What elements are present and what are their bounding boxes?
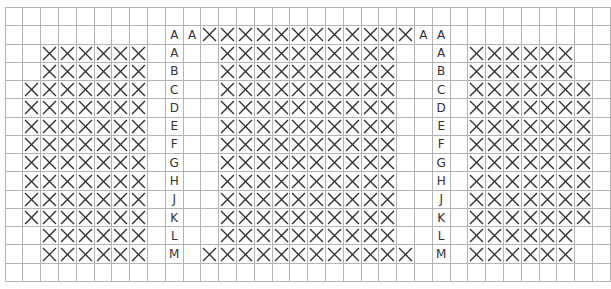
seat-right-marked[interactable]	[540, 118, 558, 136]
seat-left-marked[interactable]	[77, 245, 95, 263]
seat-right-marked[interactable]	[557, 63, 575, 81]
seat-left-marked[interactable]	[77, 45, 95, 63]
seat-left-marked[interactable]	[112, 118, 130, 136]
seat-center-marked[interactable]	[362, 118, 380, 136]
seat-right-marked[interactable]	[504, 81, 522, 99]
seat-right-marked[interactable]	[522, 81, 540, 99]
seat-center-marked[interactable]	[344, 245, 362, 263]
seat-right-marked[interactable]	[486, 81, 504, 99]
seat-right-marked[interactable]	[504, 227, 522, 245]
seat-right-marked[interactable]	[468, 172, 486, 190]
seat-left-marked[interactable]	[130, 191, 148, 209]
seat-center-marked[interactable]	[219, 154, 237, 172]
seat-center-marked[interactable]	[308, 99, 326, 117]
seat-right-marked[interactable]	[522, 245, 540, 263]
seat-left-marked[interactable]	[59, 245, 77, 263]
seat-left-marked[interactable]	[77, 191, 95, 209]
seat-right-marked[interactable]	[540, 154, 558, 172]
seat-center-marked[interactable]	[273, 191, 291, 209]
seat-left-marked[interactable]	[41, 154, 59, 172]
seat-center-marked[interactable]	[237, 81, 255, 99]
seat-center-marked[interactable]	[290, 63, 308, 81]
seat-right-marked[interactable]	[522, 209, 540, 227]
seat-right-marked[interactable]	[557, 245, 575, 263]
seat-left-marked[interactable]	[59, 154, 77, 172]
seat-center-marked[interactable]	[362, 45, 380, 63]
seat-right-marked[interactable]	[486, 172, 504, 190]
seat-center-marked[interactable]	[219, 172, 237, 190]
seat-right-marked[interactable]	[486, 245, 504, 263]
seat-center-marked[interactable]	[326, 136, 344, 154]
seat-right-marked[interactable]	[557, 227, 575, 245]
seat-left-marked[interactable]	[59, 227, 77, 245]
seat-left-marked[interactable]	[95, 136, 113, 154]
seat-right-marked[interactable]	[575, 99, 593, 117]
seat-right-marked[interactable]	[468, 63, 486, 81]
seat-left-marked[interactable]	[41, 45, 59, 63]
seat-left-marked[interactable]	[77, 63, 95, 81]
seat-right-marked[interactable]	[504, 154, 522, 172]
seat-center-marked[interactable]	[273, 154, 291, 172]
seat-center-marked[interactable]	[237, 63, 255, 81]
seat-center-marked[interactable]	[308, 154, 326, 172]
seat-center-marked[interactable]	[219, 118, 237, 136]
seat-left-marked[interactable]	[41, 136, 59, 154]
seat-left-marked[interactable]	[23, 136, 41, 154]
seat-center-marked[interactable]	[326, 209, 344, 227]
seat-left-marked[interactable]	[59, 45, 77, 63]
seat-left-marked[interactable]	[112, 209, 130, 227]
seat-center-marked[interactable]	[255, 245, 273, 263]
seat-left-marked[interactable]	[112, 63, 130, 81]
seat-right-marked[interactable]	[540, 227, 558, 245]
seat-center-marked[interactable]	[379, 63, 397, 81]
seat-left-marked[interactable]	[130, 154, 148, 172]
seat-center-marked[interactable]	[219, 45, 237, 63]
seat-center-marked[interactable]	[379, 81, 397, 99]
seat-left-marked[interactable]	[130, 227, 148, 245]
seat-left-marked[interactable]	[23, 81, 41, 99]
seat-right-marked[interactable]	[540, 81, 558, 99]
seat-right-marked[interactable]	[504, 245, 522, 263]
seat-center-marked[interactable]	[237, 209, 255, 227]
seat-right-marked[interactable]	[522, 154, 540, 172]
seat-left-marked[interactable]	[41, 81, 59, 99]
seat-center-marked[interactable]	[201, 26, 219, 44]
seat-left-marked[interactable]	[59, 172, 77, 190]
seat-center-marked[interactable]	[255, 136, 273, 154]
seat-left-marked[interactable]	[41, 99, 59, 117]
seat-center-marked[interactable]	[344, 227, 362, 245]
seat-center-marked[interactable]	[273, 63, 291, 81]
seat-left-marked[interactable]	[130, 99, 148, 117]
seat-center-marked[interactable]	[255, 227, 273, 245]
seat-left-marked[interactable]	[112, 191, 130, 209]
seat-left-marked[interactable]	[77, 209, 95, 227]
seat-right-marked[interactable]	[486, 99, 504, 117]
seat-left-marked[interactable]	[23, 172, 41, 190]
seat-center-marked[interactable]	[290, 26, 308, 44]
seat-center-marked[interactable]	[308, 191, 326, 209]
seat-left-marked[interactable]	[23, 209, 41, 227]
seat-center-marked[interactable]	[362, 245, 380, 263]
seat-right-marked[interactable]	[522, 63, 540, 81]
seat-right-marked[interactable]	[557, 45, 575, 63]
seat-right-marked[interactable]	[468, 118, 486, 136]
seat-left-marked[interactable]	[95, 81, 113, 99]
seat-right-marked[interactable]	[522, 118, 540, 136]
seat-left-marked[interactable]	[23, 99, 41, 117]
seat-center-marked[interactable]	[362, 81, 380, 99]
seat-right-marked[interactable]	[522, 172, 540, 190]
seat-center-marked[interactable]	[255, 81, 273, 99]
seat-center-marked[interactable]	[344, 118, 362, 136]
seat-left-marked[interactable]	[112, 45, 130, 63]
seat-left-marked[interactable]	[77, 99, 95, 117]
seat-center-marked[interactable]	[326, 191, 344, 209]
seat-center-marked[interactable]	[255, 26, 273, 44]
seat-center-marked[interactable]	[273, 118, 291, 136]
seat-right-marked[interactable]	[504, 118, 522, 136]
seat-center-marked[interactable]	[344, 81, 362, 99]
seat-right-marked[interactable]	[540, 136, 558, 154]
seat-right-marked[interactable]	[468, 227, 486, 245]
seat-center-marked[interactable]	[326, 26, 344, 44]
seat-left-marked[interactable]	[41, 245, 59, 263]
seat-center-marked[interactable]	[344, 63, 362, 81]
